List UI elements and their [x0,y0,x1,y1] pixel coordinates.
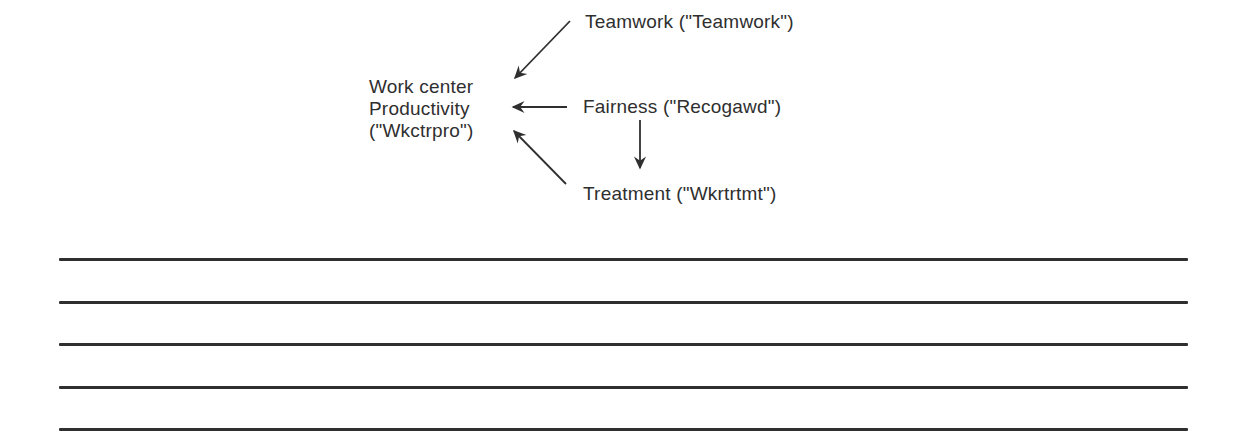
node-work-center-productivity-line3: ("Wkctrpro") [369,120,474,142]
ruled-line [59,343,1188,346]
node-work-center-productivity-line1: Work center [369,76,474,98]
ruled-line [59,301,1188,304]
node-work-center-productivity-line2: Productivity [369,98,474,120]
arrow-teamwork-to-productivity [515,21,570,78]
node-work-center-productivity: Work center Productivity ("Wkctrpro") [369,76,474,142]
arrow-treatment-to-productivity [514,131,566,184]
node-fairness: Fairness ("Recogawd") [583,96,781,118]
ruled-line [59,386,1188,389]
node-treatment: Treatment ("Wkrtrtmt") [583,183,776,205]
ruled-line [59,428,1188,431]
scanned-page: Work center Productivity ("Wkctrpro") Te… [0,0,1241,442]
node-teamwork: Teamwork ("Teamwork") [585,11,794,33]
ruled-line [59,258,1188,261]
